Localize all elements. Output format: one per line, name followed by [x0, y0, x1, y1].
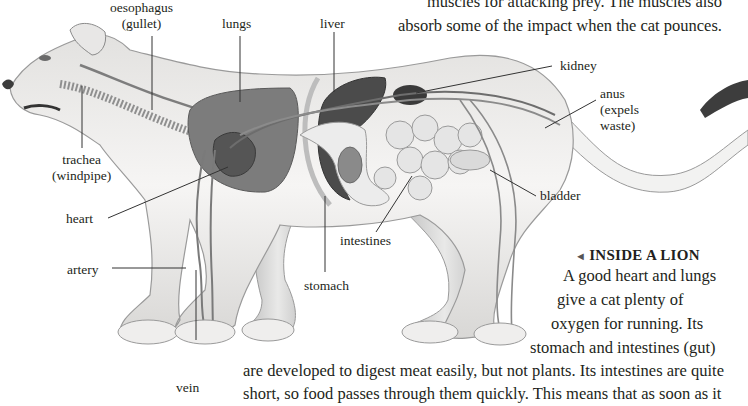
label-artery: artery: [67, 262, 98, 278]
label-vein: vein: [176, 380, 199, 396]
caption-line-3: oxygen for running. Its: [551, 312, 703, 336]
bladder-organ: [450, 150, 490, 170]
label-intestines: intestines: [340, 233, 391, 249]
label-trachea-line2: (windpipe): [52, 168, 111, 184]
label-anus-line3: waste): [600, 118, 639, 134]
label-kidney: kidney: [560, 58, 597, 74]
label-oesophagus: oesophagus (gullet): [110, 0, 173, 32]
heart-organ: [213, 132, 255, 176]
caption-line-5: are developed to digest meat easily, but…: [243, 359, 724, 383]
caption-heading: ◄INSIDE A LION: [575, 247, 700, 264]
label-heart: heart: [66, 211, 93, 227]
label-trachea-line1: trachea: [52, 152, 111, 168]
label-oesophagus-line1: oesophagus: [110, 0, 173, 16]
label-oesophagus-line2: (gullet): [110, 16, 173, 32]
caption-heading-text: INSIDE A LION: [589, 247, 700, 263]
label-anus-line2: (expels: [600, 102, 639, 118]
label-lungs: lungs: [222, 16, 251, 32]
label-trachea: trachea (windpipe): [52, 152, 111, 184]
left-arrow-icon: ◄: [575, 250, 586, 262]
lion-body: [10, 31, 573, 340]
label-stomach: stomach: [304, 278, 349, 294]
caption-line-4: stomach and intestines (gut): [530, 336, 716, 360]
label-bladder: bladder: [540, 188, 580, 204]
label-anus-line1: anus: [600, 86, 639, 102]
label-anus: anus (expels waste): [600, 86, 639, 134]
spleen: [338, 147, 362, 183]
caption-line-2: give a cat plenty of: [557, 288, 683, 312]
label-liver: liver: [320, 16, 345, 32]
caption-line-1: A good heart and lungs: [563, 264, 716, 288]
tail: [555, 110, 748, 192]
tail-tuft: [700, 80, 748, 118]
eye: [39, 55, 51, 61]
caption-line-6: short, so food passes through them quick…: [243, 382, 721, 406]
